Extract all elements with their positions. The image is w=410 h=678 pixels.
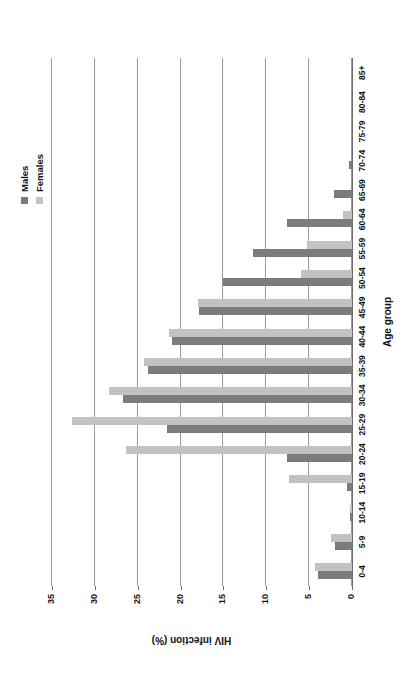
- category-tick-label: 80-84: [357, 87, 367, 116]
- value-axis-tick: [309, 586, 310, 590]
- value-axis-tick: [138, 586, 139, 590]
- value-axis-tick-label: 15: [217, 594, 227, 620]
- value-axis-tick-label: 10: [260, 594, 270, 620]
- value-axis-tick-label: 35: [46, 594, 56, 620]
- value-axis-tick: [52, 586, 53, 590]
- x-axis-title: Age group: [382, 58, 393, 586]
- category-tick-label: 85+: [357, 58, 367, 87]
- category-tick-label: 40-44: [357, 322, 367, 351]
- bar-chart-figure: Males Females 05101520253035 0-45-910-14…: [0, 0, 410, 678]
- category-tick-label: 20-24: [357, 439, 367, 468]
- category-tick-label: 65-69: [357, 175, 367, 204]
- value-axis-tick: [181, 586, 182, 590]
- category-tick-label: 15-19: [357, 469, 367, 498]
- category-tick-label: 25-29: [357, 410, 367, 439]
- value-axis-tick: [266, 586, 267, 590]
- category-tick-label: 50-54: [357, 263, 367, 292]
- value-axis-tick: [223, 586, 224, 590]
- category-tick-label: 35-39: [357, 351, 367, 380]
- value-axis-tick: [95, 586, 96, 590]
- category-tick-label: 10-14: [357, 498, 367, 527]
- category-tick-label: 75-79: [357, 117, 367, 146]
- category-tick-label: 0-4: [357, 557, 367, 586]
- value-axis-tick-label: 5: [303, 594, 313, 620]
- category-tick-label: 30-34: [357, 381, 367, 410]
- category-tick-label: 45-49: [357, 293, 367, 322]
- category-tick-label: 55-59: [357, 234, 367, 263]
- value-axis-tick-label: 30: [89, 594, 99, 620]
- category-tick-label: 5-9: [357, 527, 367, 556]
- category-tick-label: 70-74: [357, 146, 367, 175]
- category-tick-label: 60-64: [357, 205, 367, 234]
- value-axis-tick-label: 20: [175, 594, 185, 620]
- value-axis-tick-label: 0: [346, 594, 356, 620]
- value-axis-tick-label: 25: [132, 594, 142, 620]
- rotated-figure-container: Males Females 05101520253035 0-45-910-14…: [0, 0, 410, 678]
- y-axis-title: HIV infection (%): [122, 635, 262, 646]
- value-axis-tick: [352, 586, 353, 590]
- category-axis-labels: 0-45-910-1415-1920-2425-2930-3435-3940-4…: [0, 58, 380, 586]
